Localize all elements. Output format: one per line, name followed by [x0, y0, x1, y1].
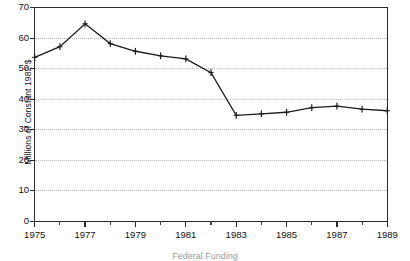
data-point-marker — [259, 110, 264, 117]
y-axis-title: Millions of Constant 1982 $ — [23, 27, 33, 197]
y-axis-tick-label: 60 — [18, 32, 29, 43]
data-point-marker — [385, 107, 390, 114]
y-axis-tick-label: 50 — [18, 62, 29, 73]
x-axis-tick-label: 1977 — [75, 229, 96, 240]
y-axis-tick-label: 30 — [18, 123, 29, 134]
plot-area: 010203040506070 197519771979198119831985… — [34, 7, 388, 222]
x-axis-tick-label: 1983 — [226, 229, 247, 240]
x-axis-tick-label: 1987 — [326, 229, 347, 240]
x-axis-tick-label: 1979 — [125, 229, 146, 240]
data-point-marker — [108, 40, 113, 47]
data-point-marker — [284, 109, 289, 116]
x-axis-tick-label: 1975 — [24, 229, 45, 240]
data-point-marker — [183, 55, 188, 62]
data-point-marker — [309, 104, 314, 111]
x-axis-tick-label: 1985 — [276, 229, 297, 240]
data-series-line — [34, 7, 388, 222]
y-axis-tick-label: 0 — [24, 215, 29, 226]
y-axis-tick-label: 70 — [18, 1, 29, 12]
data-point-marker — [334, 103, 339, 110]
y-axis-tick-label: 40 — [18, 93, 29, 104]
data-point-marker — [158, 52, 163, 59]
y-axis-tick-label: 10 — [18, 184, 29, 195]
x-axis-tick-label: 1989 — [377, 229, 398, 240]
figure-caption-text: Federal Funding — [172, 252, 238, 261]
chart-figure: Millions of Constant 1982 $ 010203040506… — [0, 0, 410, 261]
y-axis-tick-label: 20 — [18, 154, 29, 165]
data-point-marker — [360, 106, 365, 113]
data-point-marker — [133, 48, 138, 55]
figure-caption: Federal Funding — [0, 252, 410, 261]
x-axis-tick-label: 1981 — [175, 229, 196, 240]
